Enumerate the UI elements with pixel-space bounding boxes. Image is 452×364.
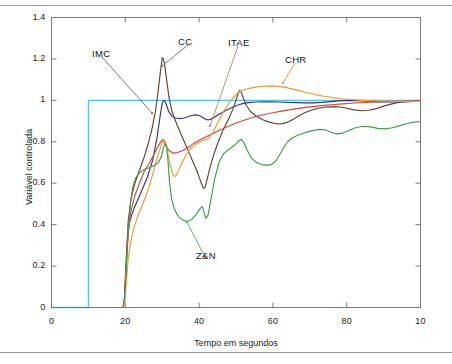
series-label-z-n: Z&N [196, 250, 216, 261]
y-tick-label: 1.4 [32, 12, 45, 22]
leader-line-chr [283, 63, 295, 83]
y-tick-label: 1 [40, 94, 45, 104]
leader-line-itae [210, 46, 238, 126]
series-line-chr [52, 86, 421, 308]
x-tick-label: 10 [401, 316, 441, 326]
x-tick-label: 80 [327, 316, 367, 326]
annotation-leader-lines [102, 45, 295, 259]
leader-line-imc [102, 57, 152, 113]
y-tick-label: 0.4 [32, 219, 45, 229]
x-axis-title: Tempo em segundos [10, 338, 452, 348]
series-line-z-n [52, 121, 421, 307]
series-label-imc: IMC [92, 48, 110, 59]
y-tick-label: 0 [40, 302, 45, 312]
axis-ticks [52, 18, 421, 308]
data-curves [52, 58, 421, 308]
series-label-cc: CC [178, 36, 192, 47]
figure-container: 00.20.40.60.811.21.4 02040608010 Variáve… [0, 0, 452, 364]
chart-canvas [0, 0, 452, 364]
x-tick-label: 40 [179, 316, 219, 326]
y-axis-title: Variável controlada [24, 128, 34, 204]
y-tick-label: 0.6 [32, 177, 45, 187]
series-label-itae: ITAE [228, 37, 250, 48]
plot-frame [52, 18, 421, 308]
series-line-setpoint [52, 100, 421, 307]
leader-arrow-cc [161, 65, 163, 67]
leader-arrow-itae [209, 125, 211, 127]
y-tick-label: 1.2 [32, 53, 45, 63]
leader-arrow-chr [282, 82, 284, 84]
y-tick-label: 0.8 [32, 136, 45, 146]
leader-line-cc [162, 45, 188, 66]
series-line-itae [52, 101, 421, 307]
leader-arrow-z-n [186, 221, 188, 223]
series-line-imc [52, 100, 421, 307]
y-tick-label: 0.2 [32, 260, 45, 270]
x-tick-label: 20 [105, 316, 145, 326]
x-tick-label: 0 [32, 316, 72, 326]
x-tick-label: 60 [253, 316, 293, 326]
axes-frame [52, 18, 421, 308]
leader-arrow-imc [151, 112, 153, 114]
series-label-chr: CHR [285, 54, 306, 65]
